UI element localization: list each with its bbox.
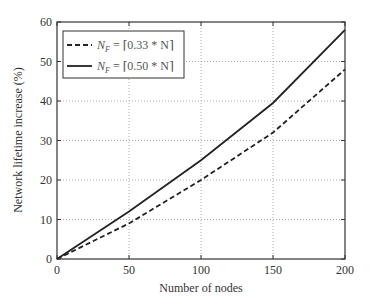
line-chart: 050100150200 0102030405060 Number of nod… (0, 0, 371, 306)
y-tick-label: 10 (40, 213, 52, 227)
y-tick-label: 0 (46, 252, 52, 266)
y-tick-label: 20 (40, 173, 52, 187)
y-tick-label: 60 (40, 15, 52, 29)
legend: NF = ⌈0.33 * N⌉ NF = ⌈0.50 * N⌉ (63, 31, 184, 78)
x-tick-label: 0 (54, 263, 60, 277)
y-tick-label: 40 (40, 94, 52, 108)
y-tick-label: 50 (40, 55, 52, 69)
y-axis-title: Network lifetime increase (%) (11, 67, 25, 213)
y-tick-labels: 0102030405060 (40, 15, 52, 266)
x-tick-labels: 050100150200 (54, 263, 354, 277)
x-axis-title: Number of nodes (159, 281, 243, 295)
x-tick-label: 100 (192, 263, 210, 277)
y-tick-label: 30 (40, 134, 52, 148)
x-tick-label: 150 (264, 263, 282, 277)
x-tick-label: 50 (123, 263, 135, 277)
x-tick-label: 200 (336, 263, 354, 277)
